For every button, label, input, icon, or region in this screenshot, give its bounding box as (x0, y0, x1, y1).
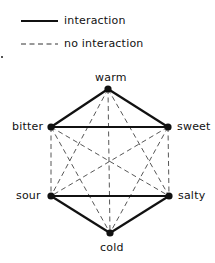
node-label-warm: warm (95, 72, 127, 84)
node-label-salty: salty (178, 190, 205, 202)
legend-no-interaction-label: no interaction (64, 38, 144, 50)
interaction-edge-salty-cold (110, 196, 169, 233)
no-interaction-edge-sweet-salty (168, 127, 169, 196)
node-dot-sweet (164, 123, 171, 130)
no-interaction-edges (51, 89, 169, 233)
node-dot-bitter (47, 123, 54, 130)
interaction-edge-sour-cold (51, 196, 110, 233)
interaction-edge-warm-bitter (51, 89, 108, 127)
node-dot-sour (47, 192, 54, 199)
node-label-sour: sour (16, 190, 41, 202)
interaction-edge-warm-sweet (108, 89, 168, 127)
scan-artifact (1, 56, 3, 58)
node-label-cold: cold (100, 242, 124, 254)
node-label-bitter: bitter (12, 121, 43, 133)
node-dot-cold (106, 229, 113, 236)
no-interaction-edge-warm-cold (108, 89, 110, 233)
legend-interaction-label: interaction (64, 15, 126, 27)
node-label-sweet: sweet (177, 121, 211, 133)
node-dot-warm (104, 85, 111, 92)
node-dot-salty (165, 192, 172, 199)
